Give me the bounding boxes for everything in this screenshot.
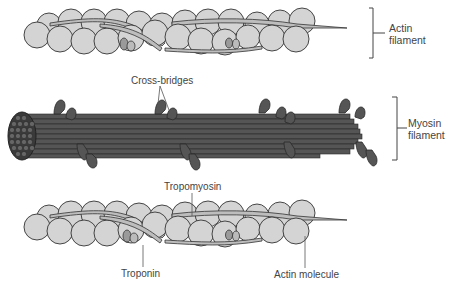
myosin-filament-bracket xyxy=(392,97,407,160)
muscle-filament-diagram xyxy=(0,0,450,290)
actin-filament-label: Actin filament xyxy=(389,22,426,46)
actin-filament-top xyxy=(24,8,347,55)
myosin-filament-label: Myosin filament xyxy=(408,117,445,141)
actin-filament-bracket xyxy=(369,8,385,58)
tropomyosin-label: Tropomyosin xyxy=(164,181,221,193)
actin-filament-bottom xyxy=(24,200,347,247)
troponin-label: Troponin xyxy=(121,268,160,280)
cross-bridges-label: Cross-bridges xyxy=(131,75,193,87)
actin-molecule-label: Actin molecule xyxy=(274,269,339,281)
myosin-cross-section xyxy=(8,112,36,160)
myosin-filament xyxy=(8,99,377,170)
